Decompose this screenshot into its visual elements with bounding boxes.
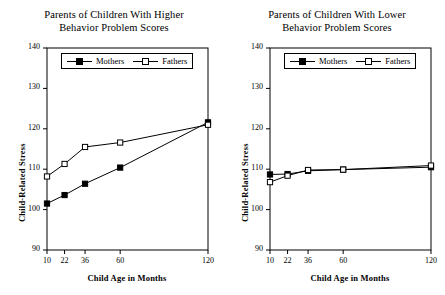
legend-line-icon [290, 61, 299, 62]
legend-entry-mothers: Mothers [67, 56, 124, 66]
open-square-icon [365, 58, 372, 65]
x-tick-label: 120 [416, 256, 445, 265]
legend-line-icon [306, 61, 315, 62]
y-tick-label: 90 [3, 244, 40, 253]
y-tick-label: 120 [3, 123, 40, 132]
legend-higher: Mothers Fathers [61, 53, 193, 69]
legend-lower: Mothers Fathers [284, 53, 416, 69]
legend-label-fathers: Fathers [162, 56, 187, 66]
x-tick-label: 36 [293, 256, 323, 265]
legend-label-mothers: Mothers [96, 56, 124, 66]
y-tick-label: 130 [226, 82, 263, 91]
y-tick-label: 120 [226, 123, 263, 132]
legend-label-fathers: Fathers [385, 56, 410, 66]
y-tick-label: 130 [3, 82, 40, 91]
chart-panel-lower: Parents of Children With Lower Behavior … [223, 0, 445, 295]
y-tick-label: 110 [3, 163, 40, 172]
x-axis-title-higher: Child Age in Months [16, 273, 238, 283]
legend-line-icon [83, 61, 92, 62]
x-tick-label: 36 [70, 256, 100, 265]
legend-line-icon [67, 61, 76, 62]
y-tick-label: 100 [3, 204, 40, 213]
filled-square-icon [299, 58, 306, 65]
chart-panel-higher: Parents of Children With Higher Behavior… [0, 0, 222, 295]
legend-line-icon [133, 61, 142, 62]
x-tick-label: 60 [328, 256, 358, 265]
y-tick-label: 140 [226, 42, 263, 51]
legend-line-icon [372, 61, 381, 62]
legend-label-mothers: Mothers [319, 56, 347, 66]
y-tick-label: 90 [226, 244, 263, 253]
x-tick-label: 120 [193, 256, 223, 265]
y-tick-label: 140 [3, 42, 40, 51]
legend-line-icon [356, 61, 365, 62]
x-axis-title-lower: Child Age in Months [239, 273, 445, 283]
legend-entry-fathers: Fathers [356, 56, 410, 66]
open-square-icon [142, 58, 149, 65]
legend-line-icon [149, 61, 158, 62]
figure-root: Parents of Children With Higher Behavior… [0, 0, 445, 295]
x-tick-label: 60 [105, 256, 135, 265]
filled-square-icon [76, 58, 83, 65]
legend-entry-fathers: Fathers [133, 56, 187, 66]
legend-entry-mothers: Mothers [290, 56, 347, 66]
y-axis-title-lower: Child-Related Stress [240, 143, 250, 222]
